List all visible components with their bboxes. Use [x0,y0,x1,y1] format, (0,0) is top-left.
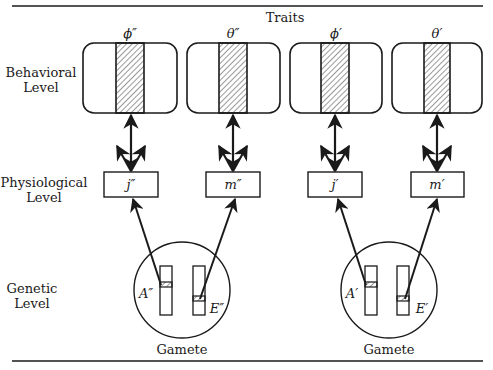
trait-label-theta-prime: θ′ [432,26,443,41]
gamete-caption: Gamete [156,342,207,357]
gene-label-e: E′ [415,301,428,316]
traits-header: Traits [266,10,305,25]
svg-text:m″: m″ [224,177,241,192]
behavior-box-phi-double-prime [83,43,177,113]
arrow-bundle-3 [321,115,349,171]
gene-band [193,296,205,301]
gene-label-a: A″ [138,286,153,301]
svg-text:Physiological: Physiological [1,175,88,190]
trait-label-phi-prime: ϕ′ [330,26,342,41]
gene-trait-diagram: Traits Behavioral Level Physiological Le… [0,0,493,370]
gene-arrows [133,199,437,299]
chromosome-a [160,266,172,315]
svg-text:Level: Level [14,296,50,311]
gene-label-e: E″ [209,301,224,316]
level-label-physiological: Physiological Level [1,175,88,205]
trait-label-phi-double-prime: ϕ″ [123,26,137,41]
svg-text:Level: Level [23,80,59,95]
arrow-bundle-1 [117,115,145,171]
arrow-bundle-4 [423,115,451,171]
trait-label-theta-double-prime: θ″ [227,26,240,41]
behavior-box-theta-prime [392,43,482,113]
svg-text:Level: Level [26,190,62,205]
hatched-stripe [219,43,247,113]
level-label-behavioral: Behavioral Level [6,65,77,95]
gamete-2: A′ E′ Gamete [341,242,437,357]
hatched-stripe [424,43,450,113]
svg-text:Behavioral: Behavioral [6,65,77,80]
physio-box-m-double-prime: m″ [206,172,260,197]
gamete-1: A″ E″ Gamete [134,242,230,357]
arrow-e-prime-to-m [405,199,437,299]
arrow-a-prime-to-j [338,199,366,285]
gene-band [397,296,409,301]
hatched-stripe [321,43,349,113]
level-label-genetic: Genetic Level [7,281,58,311]
svg-text:m′: m′ [429,177,444,192]
physio-box-m-prime: m′ [411,172,464,197]
chromosome-a [365,266,377,315]
svg-text:Genetic: Genetic [7,281,58,296]
behavior-box-phi-prime [290,43,382,113]
behavior-box-theta-double-prime [187,43,280,113]
hatched-stripe [116,43,144,113]
physio-box-j-prime: j′ [308,172,362,197]
arrow-bundle-2 [219,115,247,171]
gamete-caption: Gamete [363,342,414,357]
gene-label-a: A′ [345,286,358,301]
physio-box-j-double-prime: j″ [104,172,158,197]
